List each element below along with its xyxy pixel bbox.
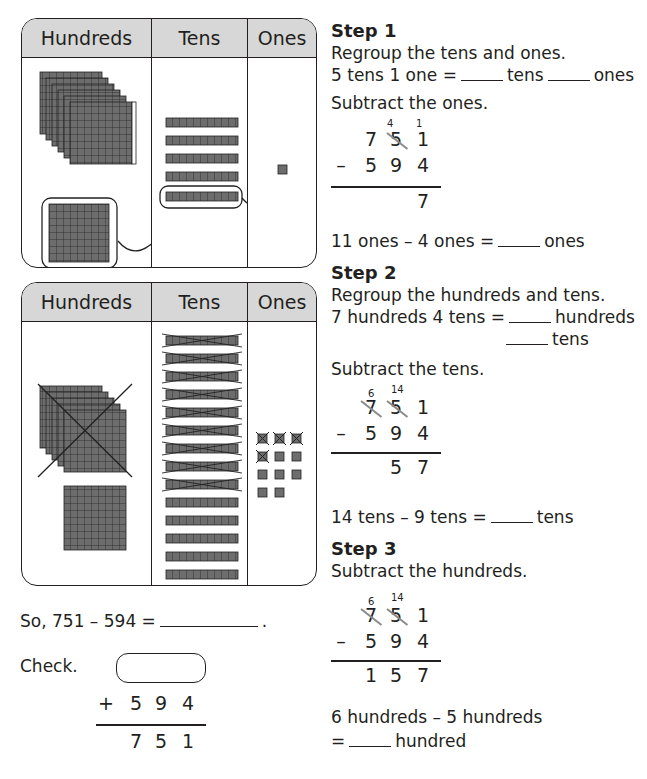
check-problem: + 5 9 4 7 5 1 [96, 692, 206, 744]
place-value-chart-1: Hundreds Tens Ones [21, 18, 317, 268]
header-tens: Tens [152, 283, 248, 321]
header-ones: Ones [248, 283, 316, 321]
tens-rods-icon [152, 58, 248, 268]
step1-title: Step 1 [331, 20, 396, 41]
step1-problem: 4 1 7 5 1 – 5 9 4 7 [331, 118, 441, 196]
answer-blank[interactable] [349, 732, 391, 747]
final-answer-blank[interactable] [160, 612, 258, 627]
header-hundreds: Hundreds [22, 19, 152, 57]
place-value-chart-2: Hundreds Tens Ones [21, 282, 317, 586]
step2-problem: 6 14 7 5 1 – 5 9 4 5 7 [331, 388, 441, 466]
check-label: Check. [20, 655, 78, 677]
answer-blank[interactable] [506, 330, 548, 345]
answer-blank[interactable] [509, 308, 551, 323]
answer-blank[interactable] [498, 232, 540, 247]
ones-column [248, 58, 317, 268]
step3-instruction: Subtract the hundreds. [331, 560, 527, 582]
step3-hundreds-line: 6 hundreds – 5 hundreds [331, 706, 542, 728]
ones-column [248, 322, 317, 586]
step2-tens-line: 14 tens – 9 tens =tens [331, 506, 574, 528]
step3-title: Step 3 [331, 538, 396, 559]
answer-blank[interactable] [461, 66, 503, 81]
ones-cube-icon [248, 58, 317, 268]
header-tens: Tens [152, 19, 248, 57]
hundreds-blocks-crossed-icon [22, 322, 152, 586]
hundreds-blocks-icon [22, 58, 152, 268]
tens-column [152, 58, 248, 268]
chart-header: Hundreds Tens Ones [22, 283, 316, 322]
final-equation: So, 751 – 594 =. [20, 610, 267, 632]
hundreds-column [22, 58, 152, 268]
ones-cubes-crossed-icon [248, 322, 317, 586]
step2-instruction: Regroup the hundreds and tens. [331, 284, 605, 306]
step2-regroup-line: 7 hundreds 4 tens =hundreds [331, 306, 635, 328]
step1-subtract-label: Subtract the ones. [331, 92, 488, 114]
answer-blank[interactable] [548, 66, 590, 81]
step1-instruction: Regroup the tens and ones. [331, 42, 566, 64]
step3-problem: 6 14 7 5 1 – 5 9 4 1 5 7 [331, 596, 441, 674]
step2-title: Step 2 [331, 262, 396, 283]
header-hundreds: Hundreds [22, 283, 152, 321]
tens-column [152, 322, 248, 586]
chart-header: Hundreds Tens Ones [22, 19, 316, 58]
header-ones: Ones [248, 19, 316, 57]
tens-rods-crossed-icon [152, 322, 248, 586]
hundreds-column [22, 322, 152, 586]
step2-subtract-label: Subtract the tens. [331, 358, 484, 380]
step2-regroup-line2: tens [502, 328, 589, 350]
step1-ones-line: 11 ones – 4 ones =ones [331, 230, 585, 252]
step3-answer-line: =hundred [331, 730, 466, 752]
step1-regroup-line: 5 tens 1 one =tensones [331, 64, 634, 86]
check-answer-box[interactable] [116, 653, 206, 683]
answer-blank[interactable] [491, 508, 533, 523]
